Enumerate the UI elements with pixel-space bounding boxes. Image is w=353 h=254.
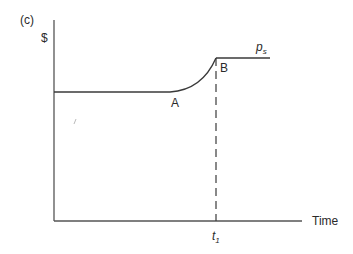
point-a-label: A <box>171 97 179 109</box>
panel-label: (c) <box>20 14 34 26</box>
y-axis-label: $ <box>41 32 48 44</box>
diagram-canvas <box>0 0 353 254</box>
ps-label: ps <box>256 41 267 56</box>
ps-sub: s <box>263 47 267 56</box>
t1-label: t1 <box>212 230 220 245</box>
point-b-label: B <box>220 62 228 74</box>
stray-mark <box>74 119 76 124</box>
price-curve-a-to-b <box>170 58 216 92</box>
t1-sub: 1 <box>215 236 219 245</box>
ps-base: p <box>256 40 263 54</box>
x-axis-label: Time <box>312 215 338 227</box>
